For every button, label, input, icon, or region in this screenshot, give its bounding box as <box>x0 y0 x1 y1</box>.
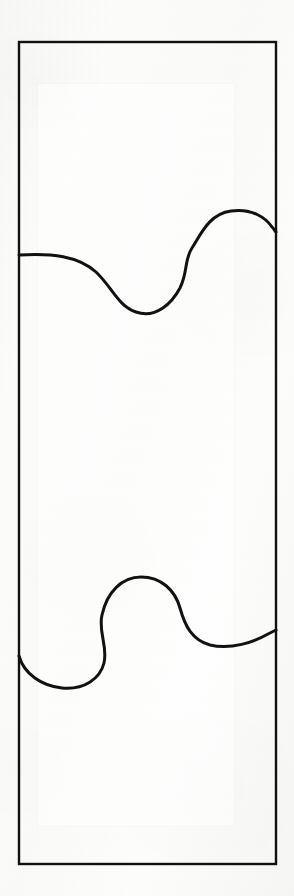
upper-wave-curve <box>19 210 276 313</box>
lower-wave-curve <box>19 577 276 688</box>
line-drawing <box>0 0 294 896</box>
drawing-canvas: Untitled line drawing A tall rectangle c… <box>0 0 294 896</box>
drawing-frame <box>19 42 276 864</box>
